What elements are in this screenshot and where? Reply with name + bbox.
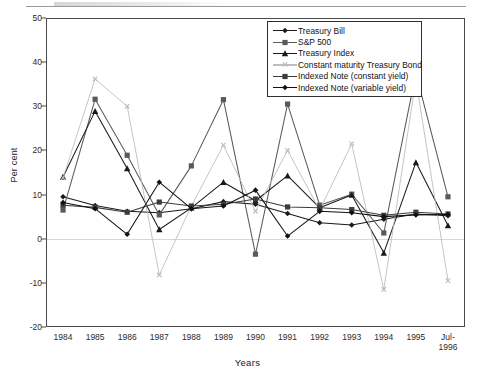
x-axis-tick-label: Jul-1996 (438, 332, 457, 352)
x-axis-tick-label: 1988 (182, 332, 201, 342)
chart-page: 50403020100-10-20 Per cent 1984198519861… (0, 0, 495, 378)
x-axis-tick-label: 1993 (342, 332, 361, 342)
x-axis-tick-label: 1987 (150, 332, 169, 342)
legend-label: Constant maturity Treasury Bond (298, 60, 422, 70)
legend-marker-triangle-icon (272, 48, 298, 59)
legend-item: S&P 500 (272, 36, 417, 47)
legend-marker-cross-icon (272, 59, 298, 70)
x-axis-tick-label: 1994 (374, 332, 393, 342)
legend-marker-square-icon (272, 71, 298, 82)
legend-marker-square-icon (272, 37, 298, 48)
series-3 (61, 77, 450, 292)
legend-item: Indexed Note (variable yield) (272, 82, 417, 93)
x-axis-tick-label: 1990 (246, 332, 265, 342)
x-axis-tick-label: 1989 (214, 332, 233, 342)
x-axis-tick-label: 1984 (54, 332, 73, 342)
legend-label: Treasury Index (298, 48, 354, 58)
legend-item: Treasury Bill (272, 25, 417, 36)
series-4 (60, 196, 450, 218)
x-axis-tick-label: 1991 (278, 332, 297, 342)
x-axis-tick-label: 1985 (86, 332, 105, 342)
chart-legend: Treasury BillS&P 500Treasury IndexConsta… (267, 21, 422, 97)
legend-marker-diamond-icon (272, 25, 298, 36)
x-axis-label: Years (0, 357, 495, 368)
legend-label: S&P 500 (298, 37, 331, 47)
legend-label: Indexed Note (variable yield) (298, 83, 406, 93)
legend-item: Constant maturity Treasury Bond (272, 59, 417, 70)
x-axis-tick-label: 1995 (406, 332, 425, 342)
x-axis-tick-label: 1986 (118, 332, 137, 342)
legend-label: Treasury Bill (298, 26, 345, 36)
legend-item: Treasury Index (272, 48, 417, 59)
legend-item: Indexed Note (constant yield) (272, 71, 417, 82)
legend-marker-diamond-icon (272, 82, 298, 93)
x-axis-tick-label: 1992 (310, 332, 329, 342)
legend-label: Indexed Note (constant yield) (298, 71, 408, 81)
